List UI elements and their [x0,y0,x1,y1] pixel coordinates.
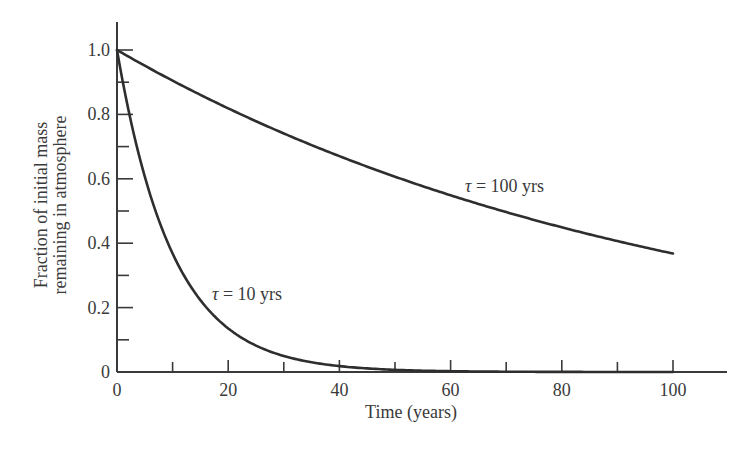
x-axis-ticks: 020406080100 [113,360,687,400]
x-tick-label: 80 [553,380,571,400]
decay-chart: 00.20.40.60.81.0 020406080100 τ = 100 yr… [0,0,749,453]
y-tick-label: 1.0 [88,40,111,60]
x-axis-title: Time (years) [365,402,457,423]
y-tick-label: 0.2 [88,298,111,318]
y-axis-title-line-1: Fraction of initial mass [31,122,51,288]
y-tick-label: 0.6 [88,169,111,189]
y-axis-title: Fraction of initial mass remaining in at… [31,116,70,295]
y-tick-label: 0 [101,362,110,382]
y-axis-title-line-2: remaining in atmosphere [50,116,70,295]
x-tick-label: 40 [330,380,348,400]
axes: 00.20.40.60.81.0 020406080100 [88,22,728,400]
decay-curve-tau-10 [117,50,673,372]
x-tick-label: 60 [442,380,460,400]
x-tick-label: 20 [219,380,237,400]
decay-curve-tau-100 [117,50,673,254]
y-tick-label: 0.8 [88,104,111,124]
x-tick-label: 0 [113,380,122,400]
curve-label-tau-100: τ = 100 yrs [465,176,544,196]
curve-label-tau-10: τ = 10 yrs [212,284,282,304]
x-tick-label: 100 [660,380,687,400]
y-axis-ticks: 00.20.40.60.81.0 [88,40,134,382]
curves [117,50,673,372]
y-tick-label: 0.4 [88,233,111,253]
